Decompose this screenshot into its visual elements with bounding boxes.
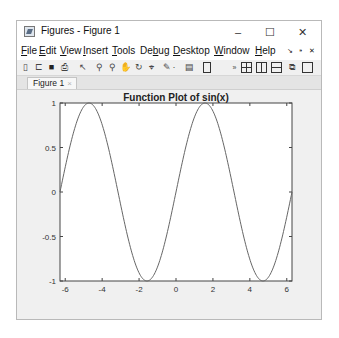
menu-help[interactable]: Help	[255, 45, 276, 56]
brush-dropdown-icon[interactable]: ·	[171, 62, 177, 73]
x-tick-label: 2	[211, 285, 216, 294]
tab-figure-1[interactable]: Figure 1 ×	[27, 77, 77, 89]
undock-arrow-icon[interactable]: ↘	[287, 47, 293, 55]
x-tick-label: 6	[285, 285, 290, 294]
maximize-icon[interactable]	[302, 62, 313, 73]
y-tick-label: -0.5	[42, 233, 56, 242]
menu-insert[interactable]: Insert	[83, 45, 108, 56]
split-left-right-icon[interactable]	[256, 62, 267, 73]
save-icon[interactable]: ■	[46, 62, 57, 73]
tab-bar: Figure 1 ×	[17, 76, 321, 90]
plot-title: Function Plot of sin(x)	[123, 92, 229, 103]
zoom-out-icon[interactable]: ⚲	[107, 62, 118, 73]
menu-desktop[interactable]: Desktop	[173, 45, 210, 56]
colorbar-icon[interactable]	[203, 62, 211, 73]
title-bar[interactable]: Figures - Figure 1 – ☐ ✕	[17, 21, 321, 43]
x-tick-label: 4	[248, 285, 253, 294]
window-title: Figures - Figure 1	[41, 25, 120, 36]
split-top-bottom-icon[interactable]	[271, 62, 282, 73]
float-icon[interactable]: ⧉	[286, 62, 297, 73]
link-plot-icon[interactable]: ▤	[184, 62, 195, 73]
matlab-figure-icon	[24, 26, 35, 37]
x-tick-label: 0	[174, 285, 179, 294]
figure-canvas[interactable]: Function Plot of sin(x) -6-4-20246-1-0.5…	[18, 90, 320, 319]
x-tick-label: -4	[99, 285, 107, 294]
y-tick-label: -1	[49, 277, 57, 286]
pin-icon[interactable]: ⁍	[299, 47, 303, 55]
zoom-in-icon[interactable]: ⚲	[94, 62, 105, 73]
menu-file[interactable]: File	[21, 45, 37, 56]
menu-debug[interactable]: Debug	[140, 45, 169, 56]
close-button[interactable]: ✕	[289, 23, 315, 41]
y-tick-label: 1	[52, 99, 57, 108]
y-tick-label: 0.5	[45, 144, 57, 153]
data-cursor-icon[interactable]: ⌖	[146, 62, 157, 73]
overflow-icon[interactable]: »	[229, 62, 240, 73]
menu-tools[interactable]: Tools	[112, 45, 135, 56]
open-file-icon[interactable]: ⊏	[33, 62, 44, 73]
sin-plot[interactable]: Function Plot of sin(x) -6-4-20246-1-0.5…	[18, 90, 320, 319]
close-icon[interactable]: ✕	[309, 47, 315, 55]
print-icon[interactable]: ⎙	[59, 62, 70, 73]
x-tick-label: -6	[62, 285, 70, 294]
select-pointer-icon[interactable]: ↖	[77, 62, 88, 73]
minimize-button[interactable]: –	[225, 23, 251, 41]
figure-toolbar: ▯ ⊏ ■ ⎙ ↖ ⚲ ⚲ ✋ ↻ ⌖ ✎ · ▤ » ⧉	[17, 60, 321, 76]
pan-icon[interactable]: ✋	[120, 62, 131, 73]
y-tick-label: 0	[52, 188, 57, 197]
x-tick-label: -2	[136, 285, 144, 294]
tab-label: Figure 1	[33, 78, 64, 88]
menu-edit[interactable]: Edit	[39, 45, 56, 56]
new-figure-icon[interactable]: ▯	[20, 62, 31, 73]
tab-close-icon[interactable]: ×	[67, 78, 72, 89]
tile-grid-icon[interactable]	[241, 62, 252, 73]
rotate-3d-icon[interactable]: ↻	[133, 62, 144, 73]
menu-window[interactable]: Window	[214, 45, 250, 56]
menu-view[interactable]: View	[60, 45, 82, 56]
menu-bar: FileEditViewInsertToolsDebugDesktopWindo…	[17, 43, 321, 60]
figures-window: Figures - Figure 1 – ☐ ✕ FileEditViewIns…	[16, 20, 322, 320]
maximize-button[interactable]: ☐	[257, 23, 283, 41]
